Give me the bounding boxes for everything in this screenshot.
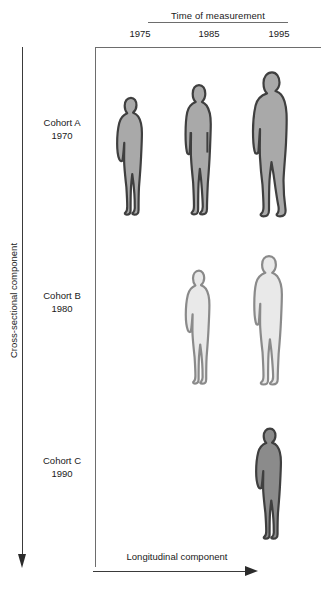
figure-cohort-a-adult xyxy=(246,70,296,218)
silhouette-path xyxy=(186,85,211,214)
figure-cohort-a-child xyxy=(110,95,152,216)
cohort-b-name: Cohort B xyxy=(43,290,81,301)
plot-frame-left-rule xyxy=(95,47,96,567)
time-of-measurement-title: Time of measurement xyxy=(148,10,288,23)
cross-sectional-axis-label: Cross-sectional component xyxy=(8,236,19,366)
silhouette-path xyxy=(254,256,282,384)
year-tick-1985: 1985 xyxy=(179,28,239,39)
longitudinal-axis-arrow xyxy=(93,566,268,578)
longitudinal-axis-arrowhead-icon xyxy=(245,566,258,576)
cohort-label-a: Cohort A 1970 xyxy=(33,117,91,142)
silhouette-path xyxy=(253,72,287,216)
figure-cohort-b-adolescent xyxy=(246,254,292,386)
cohort-c-name: Cohort C xyxy=(43,455,81,466)
figure-cohort-a-adolescent xyxy=(178,83,220,216)
longitudinal-axis-shaft xyxy=(93,571,251,572)
cross-sectional-axis-arrowhead-icon xyxy=(18,554,26,568)
silhouette-path xyxy=(256,429,281,539)
figure-cohort-c-child xyxy=(249,426,291,540)
cohort-label-b: Cohort B 1980 xyxy=(33,290,91,315)
cohort-c-year: 1990 xyxy=(33,468,91,481)
silhouette-path xyxy=(117,98,142,215)
silhouette-path xyxy=(186,271,210,384)
cohort-b-year: 1980 xyxy=(33,303,91,316)
cohort-a-year: 1970 xyxy=(33,130,91,143)
year-tick-1975: 1975 xyxy=(110,28,170,39)
cohort-a-name: Cohort A xyxy=(44,117,81,128)
plot-frame-top-rule xyxy=(95,47,321,48)
year-tick-1995: 1995 xyxy=(249,28,309,39)
figure-cohort-b-child xyxy=(179,268,219,385)
year-tick-row: 1975 1985 1995 xyxy=(95,28,321,44)
longitudinal-axis-label: Longitudinal component xyxy=(97,551,257,562)
cohort-label-c: Cohort C 1990 xyxy=(33,455,91,480)
cross-sectional-axis-shaft xyxy=(22,47,23,561)
cross-sectional-axis-arrow xyxy=(18,47,28,573)
